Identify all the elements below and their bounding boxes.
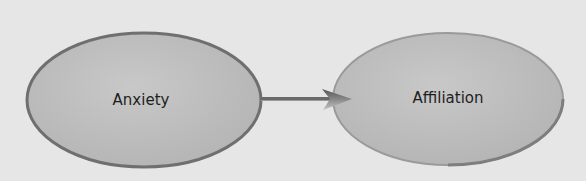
- diagram-canvas: [0, 0, 586, 181]
- node-label-anxiety: Anxiety: [113, 91, 170, 109]
- node-label-affiliation: Affiliation: [412, 89, 483, 107]
